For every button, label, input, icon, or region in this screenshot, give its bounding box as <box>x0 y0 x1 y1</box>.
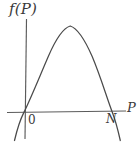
origin-tick-label: 0 <box>28 114 36 126</box>
y-axis-line <box>25 19 27 139</box>
figure-container: f(P) P 0 N <box>0 0 140 145</box>
y-axis-label: f(P) <box>9 2 37 17</box>
x-axis-label: P <box>127 101 136 114</box>
carrying-capacity-tick-label: N <box>106 113 117 125</box>
plot-canvas <box>0 0 140 145</box>
